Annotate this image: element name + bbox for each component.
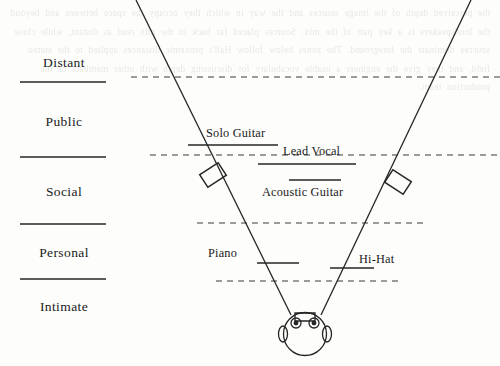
- zone-label-distant: Distant: [14, 55, 114, 71]
- zone-label-personal: Personal: [14, 245, 114, 261]
- depth-dividers: [131, 77, 500, 281]
- source-label-piano: Piano: [208, 246, 237, 261]
- source-label-hi-hat: Hi-Hat: [359, 252, 394, 267]
- listener-right-pupil: [312, 321, 316, 325]
- source-label-solo-guitar: Solo Guitar: [206, 126, 265, 141]
- zone-label-intimate: Intimate: [14, 299, 114, 315]
- zone-label-public: Public: [14, 114, 114, 130]
- zone-label-social: Social: [14, 184, 114, 200]
- listener-head: [279, 313, 332, 356]
- source-label-acoustic-guitar: Acoustic Guitar: [262, 185, 343, 200]
- listener-skull: [284, 313, 327, 356]
- source-label-lead-vocal: Lead Vocal: [283, 144, 340, 159]
- soundstage-diagram: the perceived depth of the image sources…: [0, 0, 500, 366]
- listener-left-pupil: [294, 321, 298, 325]
- left-stage-edge: [136, 0, 291, 315]
